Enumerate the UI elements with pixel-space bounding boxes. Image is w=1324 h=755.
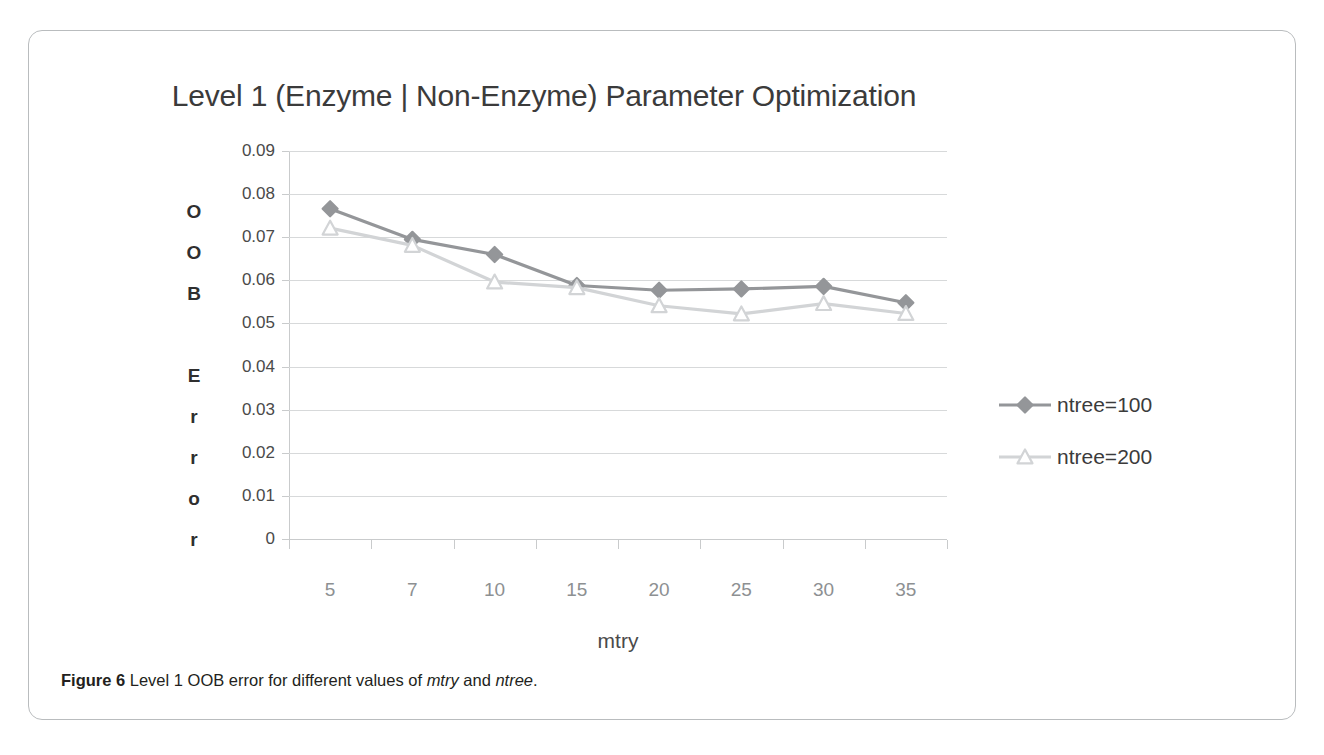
y-axis-tick-mark <box>282 367 289 368</box>
x-axis-tick-mark <box>454 540 455 549</box>
y-axis-tick-mark <box>282 410 289 411</box>
chart-series <box>323 201 914 310</box>
y-axis-tick-label: 0.01 <box>211 487 275 504</box>
legend-label: ntree=200 <box>1057 445 1152 469</box>
caption-text-part-2: and <box>459 671 496 689</box>
y-axis-tick-mark <box>282 453 289 454</box>
y-axis-tick-label: 0.09 <box>211 142 275 159</box>
y-axis-tick-mark <box>282 151 289 152</box>
y-axis-tick-label: 0 <box>211 530 275 547</box>
figure-frame: Level 1 (Enzyme | Non-Enzyme) Parameter … <box>28 30 1296 720</box>
x-axis-tick-mark <box>865 540 866 549</box>
y-axis-tick-label: 0.06 <box>211 271 275 288</box>
x-axis-title: mtry <box>289 629 947 653</box>
legend-label: ntree=100 <box>1057 393 1152 417</box>
caption-emphasis-ntree: ntree <box>495 671 533 689</box>
series-data-point <box>734 281 749 296</box>
legend-triangle-marker-icon <box>997 445 1053 469</box>
x-axis-tick-label: 30 <box>789 579 859 601</box>
x-axis-tick-label: 10 <box>460 579 530 601</box>
y-axis-tick-labels: 0.090.080.070.060.050.040.030.020.010 <box>205 31 275 656</box>
x-axis-tick-label: 15 <box>542 579 612 601</box>
y-axis-tick-mark <box>282 280 289 281</box>
figure-caption: Figure 6 Level 1 OOB error for different… <box>61 671 538 690</box>
legend-item[interactable]: ntree=100 <box>997 379 1247 431</box>
y-axis-tick-label: 0.08 <box>211 185 275 202</box>
y-axis-tick-label: 0.04 <box>211 358 275 375</box>
x-axis-tick-label: 7 <box>377 579 447 601</box>
y-axis-tick-mark <box>282 237 289 238</box>
x-axis-tick-mark <box>783 540 784 549</box>
x-axis-tick-label: 20 <box>624 579 694 601</box>
chart-region: Level 1 (Enzyme | Non-Enzyme) Parameter … <box>29 31 1297 656</box>
series-data-point <box>816 279 831 294</box>
chart-legend: ntree=100ntree=200 <box>997 379 1247 483</box>
caption-text-part-1: Level 1 OOB error for different values o… <box>125 671 426 689</box>
x-axis-tick-mark <box>536 540 537 549</box>
x-axis-tick-label: 5 <box>295 579 365 601</box>
caption-figure-number: Figure 6 <box>61 671 125 689</box>
series-plot <box>289 151 947 539</box>
series-data-point <box>487 247 502 262</box>
series-data-point <box>652 283 667 298</box>
x-axis-tick-mark <box>618 540 619 549</box>
y-axis-tick-label: 0.03 <box>211 401 275 418</box>
y-axis-tick-mark <box>282 194 289 195</box>
y-axis-tick-label: 0.07 <box>211 228 275 245</box>
y-axis-tick-mark <box>282 496 289 497</box>
series-data-point <box>323 221 338 235</box>
y-axis-tick-mark <box>282 539 289 540</box>
legend-item[interactable]: ntree=200 <box>997 431 1247 483</box>
y-axis-tick-mark <box>282 323 289 324</box>
x-axis-tick-label: 35 <box>871 579 941 601</box>
series-data-point <box>323 201 338 216</box>
plot-area <box>289 151 947 539</box>
y-axis-tick-label: 0.02 <box>211 444 275 461</box>
x-axis-tick-mark <box>947 540 948 549</box>
x-axis-tick-mark <box>289 540 290 549</box>
chart-title: Level 1 (Enzyme | Non-Enzyme) Parameter … <box>29 79 1059 113</box>
y-axis-tick-label: 0.05 <box>211 314 275 331</box>
x-axis-tick-mark <box>700 540 701 549</box>
caption-text-part-3: . <box>533 671 538 689</box>
legend-diamond-marker-icon <box>997 393 1053 417</box>
x-axis-tick-label: 25 <box>706 579 776 601</box>
caption-emphasis-mtry: mtry <box>427 671 459 689</box>
x-axis-tick-mark <box>371 540 372 549</box>
